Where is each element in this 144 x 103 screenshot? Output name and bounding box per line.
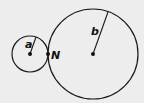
tangent-point-dot	[46, 52, 50, 56]
radius-b-label: b	[91, 25, 99, 38]
radius-a-label: a	[25, 38, 32, 51]
tangent-point-label: N	[51, 49, 60, 62]
large-circle-center-dot	[91, 52, 95, 56]
tangent-circles-diagram: a b N	[0, 0, 144, 103]
small-circle-center-dot	[28, 52, 32, 56]
